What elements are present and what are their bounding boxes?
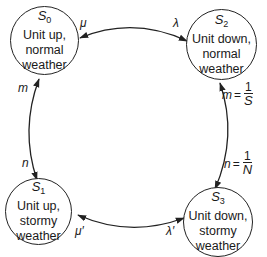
state-line: weather <box>22 58 66 73</box>
state-id: S3 <box>211 190 225 208</box>
state-line: normal <box>202 47 240 62</box>
label-mu: μ <box>80 17 87 29</box>
fraction: 1 S <box>244 81 253 108</box>
state-line: Unit up, <box>17 199 60 214</box>
state-line: Unit down, <box>188 209 247 224</box>
label-lambda: λ <box>173 17 179 29</box>
label-n-left: n <box>22 157 29 169</box>
state-line: weather <box>16 229 60 244</box>
state-id: S0 <box>38 9 52 27</box>
state-id: S2 <box>215 13 229 31</box>
state-s1: S1 Unit up, stormy weather <box>5 178 72 245</box>
label-n-equals-1-over-N: n = 1 N <box>224 150 252 177</box>
fraction: 1 N <box>243 150 252 177</box>
state-line: weather <box>196 239 240 254</box>
arc-s0-s2 <box>80 28 187 41</box>
state-line: normal <box>25 43 63 58</box>
state-line: stormy <box>20 214 58 229</box>
state-s2: S2 Unit down, normal weather <box>186 9 257 80</box>
state-s0: S0 Unit up, normal weather <box>10 6 79 75</box>
state-id: S1 <box>32 180 46 198</box>
state-s3: S3 Unit down, stormy weather <box>183 187 253 257</box>
label-mu-prime: μ′ <box>75 225 84 237</box>
state-line: stormy <box>199 224 237 239</box>
label-m-left: m <box>18 82 28 94</box>
state-line: Unit up, <box>23 28 66 43</box>
label-m-equals-1-over-S: m = 1 S <box>222 81 253 108</box>
arc-s0-s1 <box>29 79 39 180</box>
state-line: Unit down, <box>192 32 251 47</box>
state-line: weather <box>199 62 243 77</box>
label-lambda-prime: λ′ <box>166 225 174 237</box>
